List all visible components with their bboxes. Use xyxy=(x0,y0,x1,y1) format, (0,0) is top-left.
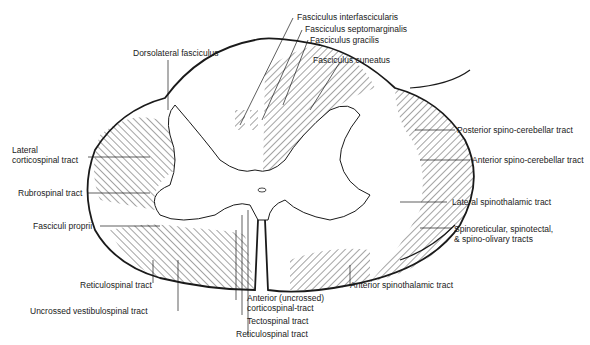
label-dorsolateral-fasciculus: Dorsolateral fasciculus xyxy=(133,48,219,58)
label-tectospinal: Tectospinal tract xyxy=(247,316,308,326)
gray-matter xyxy=(154,105,370,220)
right-lateral-hatch xyxy=(370,88,474,282)
label-uncrossed-vestibulospinal: Uncrossed vestibulospinal tract xyxy=(30,306,148,316)
label-anterior-corticospinal-line1: Anterior (uncrossed) xyxy=(247,293,324,303)
label-lateral-corticospinal-line2: corticospinal tract xyxy=(12,155,78,165)
label-posterior-spinocerebellar: Posterior spino-cerebellar tract xyxy=(457,125,573,135)
label-lateral-spinothalamic: Lateral spinothalamic tract xyxy=(452,197,551,207)
label-spinoreticular-line2: & spino-olivary tracts xyxy=(454,234,533,244)
label-anterior-spinothalamic: Anterior spinothalamic tract xyxy=(350,280,453,290)
label-fasciculi-proprii: Fasciculi proprii xyxy=(33,221,92,231)
label-fasciculus-cuneatus: Fasciculus cuneatus xyxy=(313,55,390,65)
label-fasciculus-interfascicularis: Fasciculus interfascicularis xyxy=(297,12,398,22)
label-reticulospinal-left: Reticulospinal tract xyxy=(80,280,152,290)
label-rubrospinal: Rubrospinal tract xyxy=(18,188,82,198)
label-fasciculus-gracilis: Fasciculus gracilis xyxy=(310,35,379,45)
label-lateral-corticospinal-line1: Lateral xyxy=(12,145,38,155)
label-spinoreticular-line1: Spinoreticular, spinotectal, xyxy=(454,224,553,234)
label-reticulospinal-bottom: Reticulospinal tract xyxy=(236,329,308,339)
label-fasciculus-septomarginalis: Fasciculus septomarginalis xyxy=(305,24,407,34)
label-anterior-spinocerebellar: Anterior spino-cerebellar tract xyxy=(472,155,584,165)
label-anterior-corticospinal-line2: corticospinal-tract xyxy=(247,303,314,313)
